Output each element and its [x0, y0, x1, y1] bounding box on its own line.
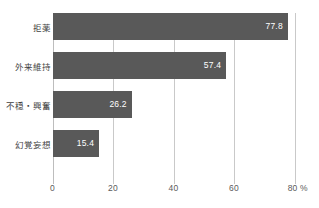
bar-value-1: 57.4	[204, 61, 226, 70]
bars-layer: 77.8 57.4 26.2 15.4	[53, 13, 295, 178]
bar-row: 57.4	[53, 52, 295, 79]
bar-value-3: 15.4	[77, 139, 99, 148]
bar-0[interactable]: 77.8	[53, 13, 288, 40]
bar-row: 15.4	[53, 130, 295, 157]
bar-1[interactable]: 57.4	[53, 52, 227, 79]
bar-2[interactable]: 26.2	[53, 91, 132, 118]
category-label-2: 不穏・興奮	[6, 91, 52, 118]
xtick-label-80: 80 %	[288, 183, 308, 193]
xtick-label-0: 0	[50, 183, 55, 193]
gridline-80	[295, 13, 296, 184]
bar-3[interactable]: 15.4	[53, 130, 100, 157]
category-label-0: 拒薬	[33, 13, 51, 40]
category-label-3: 幻覚妄想	[15, 130, 52, 157]
bar-chart: 拒薬 外来維持 不穏・興奮 幻覚妄想 77.8 57.4 26.2 15.4 0…	[0, 0, 319, 208]
xtick-label-40: 40	[169, 183, 179, 193]
xtick-label-20: 20	[108, 183, 118, 193]
category-label-1: 外来維持	[15, 52, 52, 79]
bar-value-2: 26.2	[109, 100, 131, 109]
bar-row: 26.2	[53, 91, 295, 118]
bar-row: 77.8	[53, 13, 295, 40]
xtick-label-60: 60	[229, 183, 239, 193]
bar-value-0: 77.8	[265, 22, 287, 31]
